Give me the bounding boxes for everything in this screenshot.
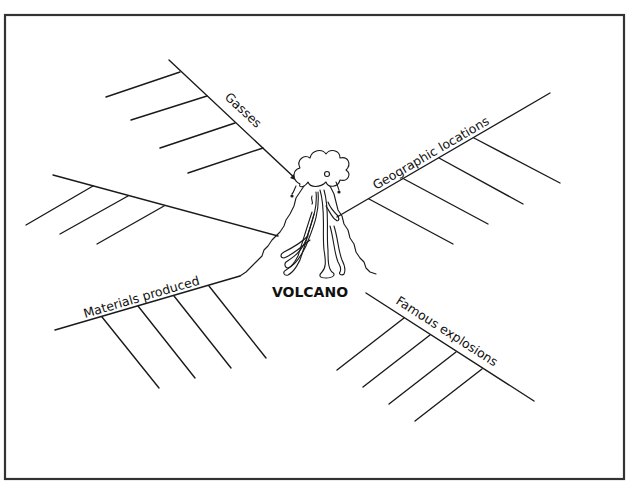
branch-materials: Materials produced [55,273,266,388]
geographic-rib-1[interactable] [369,199,453,244]
unlabeled-spine [53,175,278,236]
unlabeled-rib-2[interactable] [60,196,128,234]
geographic-label: Geographic locations [370,113,492,192]
gasses-rib-2[interactable] [131,96,207,120]
branch-gasses: Gasses [106,60,298,181]
branch-unlabeled-left [26,175,278,244]
volcano-fishbone-diagram: Gasses Materials produced Geographic loc… [0,0,631,484]
lava-flow-4 [330,226,345,275]
gasses-rib-3[interactable] [160,123,235,148]
materials-rib-1[interactable] [102,317,159,388]
volcano-smoke-cloud [294,151,349,187]
branch-geographic: Geographic locations [337,93,560,244]
gasses-rib-4[interactable] [188,148,263,173]
materials-label: Materials produced [82,273,201,321]
materials-rib-4[interactable] [209,286,266,358]
geographic-rib-4[interactable] [474,138,560,183]
spatter-dot [290,194,293,197]
gasses-spine [169,60,298,181]
famous-label: Famous explosions [393,293,500,369]
spatter-dot [337,190,340,193]
famous-spine [366,293,534,401]
diagram-frame [5,15,624,479]
gasses-rib-1[interactable] [106,72,180,97]
unlabeled-rib-1[interactable] [26,186,93,225]
materials-rib-2[interactable] [138,306,195,378]
branch-famous: Famous explosions [337,293,534,421]
unlabeled-rib-3[interactable] [97,206,164,244]
center-label-volcano: VOLCANO [272,284,348,300]
geographic-rib-3[interactable] [439,158,523,204]
volcano-eye [325,172,330,177]
geographic-rib-2[interactable] [404,179,488,224]
volcano-icon [240,151,376,278]
materials-rib-3[interactable] [174,296,231,368]
materials-spine [55,276,240,330]
